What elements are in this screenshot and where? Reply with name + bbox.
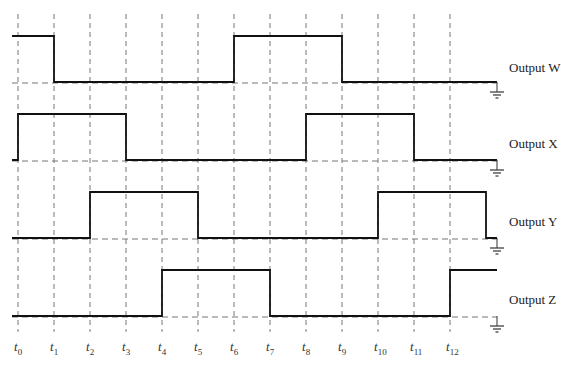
waveform-output-y (12, 192, 497, 238)
waveform-output-w (12, 36, 497, 82)
signal-label: Output W (509, 60, 560, 76)
ground-icon (490, 316, 504, 332)
time-label: t8 (302, 339, 310, 357)
time-label: t7 (266, 339, 274, 357)
time-label: t11 (410, 339, 422, 357)
ground-icon (490, 82, 504, 98)
time-label: t5 (194, 339, 202, 357)
ground-icon (490, 160, 504, 176)
time-label: t9 (338, 339, 346, 357)
waveform-output-z (12, 270, 497, 316)
time-label: t6 (230, 339, 238, 357)
time-label: t0 (14, 339, 22, 357)
time-label: t3 (122, 339, 130, 357)
waveform-output-x (12, 114, 497, 160)
time-label: t10 (374, 339, 387, 357)
signal-label: Output Y (509, 214, 557, 230)
signal-label: Output X (509, 136, 558, 152)
signal-label: Output Z (509, 292, 556, 308)
time-label: t2 (86, 339, 94, 357)
ground-icon (490, 238, 504, 254)
time-label: t12 (446, 339, 459, 357)
time-label: t4 (158, 339, 166, 357)
time-label: t1 (50, 339, 58, 357)
timing-diagram (0, 0, 561, 365)
